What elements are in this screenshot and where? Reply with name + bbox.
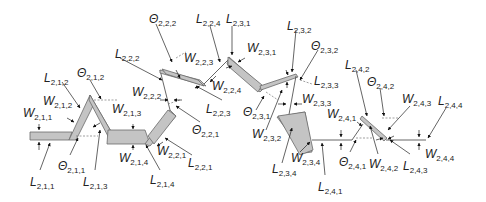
label-subscript: 2,1,3 [123,109,141,118]
label-w232: W2,3,2 [252,128,281,145]
label-symbol: L [314,74,321,88]
label-symbol: L [188,156,195,170]
label-w212: W2,1,2 [43,95,72,112]
label-w224: W2,2,4 [212,80,241,97]
label-symbol: L [206,102,213,116]
label-symbol: L [115,47,122,61]
label-symbol: W [112,102,123,116]
label-t242: Θ2,4,2 [367,76,394,93]
label-l243: L2,4,3 [403,160,427,177]
label-symbol: L [83,175,90,189]
label-symbol: W [184,51,195,65]
label-symbol: Θ [58,159,67,173]
label-symbol: L [438,94,445,108]
label-w223: W2,2,3 [184,52,213,69]
label-subscript: 2,2,2 [122,54,140,63]
label-symbol: L [318,180,325,194]
label-symbol: W [247,41,258,55]
label-symbol: Θ [367,75,376,89]
label-subscript: 2,2,4 [203,19,221,28]
label-l212: L2,1,2 [44,72,68,89]
label-subscript: 2,1,1 [37,182,55,191]
label-subscript: 2,2,1 [195,163,213,172]
label-subscript: 2,3,4 [279,169,297,178]
label-t211: Θ2,1,1 [58,160,85,177]
label-symbol: L [44,71,51,85]
label-subscript: 2,1,1 [67,166,85,175]
label-l224: L2,2,4 [196,13,220,30]
label-symbol: Θ [311,39,320,53]
label-subscript: 2,4,1 [325,187,343,196]
label-subscript: 2,3,1 [258,48,276,57]
label-symbol: W [252,127,263,141]
label-subscript: 2,1,2 [51,78,69,87]
label-symbol: W [327,107,338,121]
label-t212: Θ2,1,2 [77,67,104,84]
label-symbol: L [150,173,157,187]
label-symbol: W [369,157,380,171]
label-symbol: L [30,175,37,189]
label-l241: L2,4,1 [318,181,342,198]
label-symbol: W [425,147,436,161]
label-symbol: W [23,106,34,120]
label-subscript: 2,4,4 [445,101,463,110]
segment-2-3-4b [278,112,313,155]
label-t231: Θ2,3,1 [243,106,270,123]
label-w213: W2,1,3 [112,103,141,120]
label-symbol: Θ [243,105,252,119]
label-t241: Θ2,4,1 [339,156,366,173]
label-symbol: L [345,58,352,72]
label-w221: W2,2,1 [157,145,186,162]
label-t232: Θ2,3,2 [311,40,338,57]
label-symbol: W [212,79,223,93]
label-subscript: 2,1,2 [54,101,72,110]
label-l213: L2,1,3 [83,176,107,193]
label-l222: L2,2,2 [115,48,139,65]
label-subscript: 2,2,1 [201,130,219,139]
label-subscript: 2,3,2 [294,26,312,35]
label-symbol: Θ [149,12,158,26]
label-w214: W2,1,4 [119,152,148,169]
segment-2-1-4 [107,130,150,144]
label-w231: W2,3,1 [247,42,276,59]
label-subscript: 2,3,2 [263,134,281,143]
label-subscript: 2,1,3 [90,182,108,191]
label-l234: L2,3,4 [272,163,296,180]
label-subscript: 2,3,1 [252,112,270,121]
label-subscript: 2,4,1 [348,162,366,171]
label-l211: L2,1,1 [30,176,54,193]
label-t222: Θ2,2,2 [149,13,176,30]
label-l242: L2,4,2 [345,59,369,76]
label-l221: L2,2,1 [188,157,212,174]
label-symbol: W [302,92,313,106]
label-symbol: L [287,19,294,33]
label-symbol: L [272,162,279,176]
label-subscript: 2,4,3 [410,166,428,175]
segment-2-1-1 [30,132,72,140]
label-symbol: L [403,159,410,173]
label-w244: W2,4,4 [425,148,454,165]
label-w242: W2,4,2 [369,158,398,175]
label-subscript: 2,3,1 [233,19,251,28]
label-symbol: W [402,92,413,106]
label-subscript: 2,4,2 [352,65,370,74]
label-symbol: W [43,94,54,108]
segment-2-4-1b [352,124,363,140]
label-symbol: Θ [77,66,86,80]
label-symbol: Θ [192,123,201,137]
label-l244: L2,4,4 [438,95,462,112]
label-l233: L2,3,3 [314,75,338,92]
label-l231: L2,3,1 [226,13,250,30]
segment-2-2-3b [162,69,204,86]
label-subscript: 2,2,4 [223,86,241,95]
label-subscript: 2,2,3 [213,109,231,118]
label-subscript: 2,2,2 [143,92,161,101]
label-subscript: 2,4,4 [436,154,454,163]
label-symbol: Θ [339,155,348,169]
meander-line-diagram: L2,1,1W2,1,1L2,1,2W2,1,2Θ2,1,2Θ2,1,1W2,1… [0,0,486,202]
label-subscript: 2,2,2 [158,19,176,28]
label-l214: L2,1,4 [150,174,174,191]
label-subscript: 2,1,4 [157,180,175,189]
label-symbol: W [119,151,130,165]
label-subscript: 2,4,2 [376,82,394,91]
